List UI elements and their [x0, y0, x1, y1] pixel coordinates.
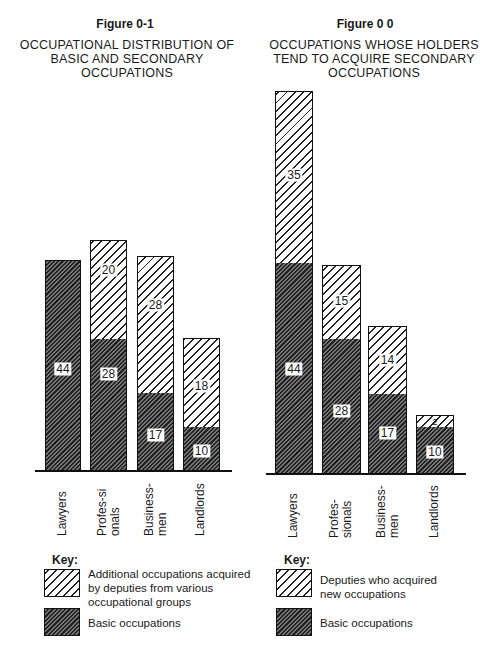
- fig1-key-title: Key:: [52, 553, 78, 567]
- fig1-value-professionals-basic: 28: [100, 368, 117, 381]
- fig2-value-businessmen-basic: 17: [379, 427, 396, 440]
- fig2-key-title: Key:: [284, 553, 310, 567]
- figure1-label: Figure 0-1: [45, 17, 205, 31]
- fig2-value-landlords-additional: 2: [430, 418, 439, 427]
- fig1-key-additional-swatch: [44, 569, 80, 597]
- fig1-xlabel-professionals: Profes-sionals: [96, 486, 124, 536]
- fig1-key-additional-label: Additional occupations acquired by deput…: [88, 567, 258, 609]
- fig2-key-basic-swatch: [276, 608, 312, 636]
- fig2-bar-professionals: 15 28: [322, 265, 361, 474]
- fig1-value-landlords-basic: 10: [193, 445, 210, 458]
- fig1-xlabel-professionals-text: Profes-sionals: [95, 489, 122, 536]
- fig2-bar-businessmen: 14 17: [368, 326, 407, 474]
- fig1-value-lawyers-basic: 44: [54, 363, 71, 376]
- fig1-key-basic-swatch: [44, 608, 80, 636]
- figure2-title: OCCUPATIONS WHOSE HOLDERS TEND TO ACQUIR…: [254, 38, 494, 80]
- fig2-xlabel-professionals: Profes-sionals: [328, 488, 356, 538]
- fig2-value-professionals-basic: 28: [333, 405, 350, 418]
- fig1-value-businessmen-basic: 17: [147, 429, 164, 442]
- fig1-xlabel-landlords: Landlords: [194, 480, 207, 536]
- fig2-key-additional-label: Deputies who acquired new occupations: [320, 573, 450, 601]
- fig2-value-lawyers-basic: 44: [285, 363, 302, 376]
- fig2-x-axis: [266, 473, 466, 475]
- fig1-bar-businessmen: 28 17: [137, 256, 174, 471]
- fig1-additional-segment: [138, 257, 173, 394]
- fig2-value-professionals-additional: 15: [333, 295, 350, 308]
- fig1-xlabel-businessmen: Business-men: [143, 486, 171, 536]
- fig1-x-axis: [35, 470, 232, 472]
- fig1-value-landlords-additional: 18: [193, 380, 210, 393]
- fig2-key-additional-swatch: [276, 569, 312, 597]
- fig1-value-businessmen-additional: 28: [147, 299, 164, 312]
- fig1-bar-landlords: 18 10: [183, 338, 220, 471]
- fig2-key-basic-label: Basic occupations: [320, 616, 490, 630]
- fig2-xlabel-businessmen-text: Business-men: [374, 485, 401, 538]
- fig2-xlabel-businessmen: Business-men: [375, 488, 403, 538]
- fig1-basic-segment: [91, 339, 126, 470]
- figure2-label: Figure 0 0: [285, 17, 445, 31]
- fig2-xlabel-professionals-text: Profes-sionals: [327, 499, 354, 538]
- fig2-xlabel-landlords: Landlords: [428, 480, 441, 538]
- fig2-value-landlords-basic: 10: [426, 446, 443, 459]
- fig1-xlabel-lawyers: Lawyers: [56, 486, 69, 536]
- fig2-bar-landlords: 2 10: [416, 415, 454, 474]
- fig1-key-basic-label: Basic occupations: [88, 616, 258, 630]
- figure1-title: OCCUPATIONAL DISTRIBUTION OF BASIC AND S…: [7, 38, 247, 80]
- fig2-value-businessmen-additional: 14: [379, 354, 396, 367]
- fig1-bar-lawyers: 44: [45, 260, 81, 471]
- fig1-additional-segment: [91, 241, 126, 340]
- fig1-bar-professionals: 20 28: [90, 240, 127, 471]
- fig2-xlabel-lawyers: Lawyers: [287, 488, 300, 538]
- fig2-bar-lawyers: 35 44: [275, 91, 313, 474]
- fig1-xlabel-businessmen-text: Business-men: [142, 483, 169, 536]
- fig1-value-professionals-additional: 20: [100, 264, 117, 277]
- fig2-value-lawyers-additional: 35: [285, 169, 302, 182]
